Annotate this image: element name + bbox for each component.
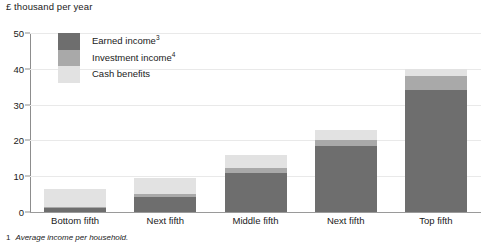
chart-figure: £ thousand per year 01020304050 Bottom f… [0, 0, 485, 247]
y-axis-tick-labels: 01020304050 [0, 33, 24, 212]
chart-legend: Earned income3Investment income4Cash ben… [58, 33, 238, 83]
footnote-marker: 1 [6, 233, 10, 242]
axis-baseline [30, 212, 481, 213]
bar-segment-cash-benefits[interactable] [315, 130, 377, 140]
x-axis-category-label: Next fifth [327, 215, 365, 226]
legend-item[interactable]: Cash benefits [58, 66, 238, 83]
bar-segment-investment-income[interactable] [405, 76, 467, 90]
bar-segment-earned-income[interactable] [134, 197, 196, 212]
bar-segment-earned-income[interactable] [405, 90, 467, 212]
chart-title: £ thousand per year [6, 1, 92, 12]
legend-label: Cash benefits [92, 68, 150, 79]
legend-item[interactable]: Earned income3 [58, 33, 238, 50]
legend-footnote-marker: 4 [172, 50, 176, 57]
legend-swatch-icon [58, 33, 80, 50]
x-axis-category-label: Next fifth [147, 215, 185, 226]
y-axis-tick-label: 30 [13, 99, 24, 110]
legend-label: Earned income3 [92, 35, 160, 46]
x-axis-category-label: Top fifth [419, 215, 452, 226]
bar-segment-investment-income[interactable] [44, 207, 106, 208]
bar-segment-earned-income[interactable] [315, 146, 377, 212]
bar-segment-investment-income[interactable] [315, 140, 377, 146]
bar-segment-investment-income[interactable] [225, 168, 287, 172]
legend-footnote-marker: 3 [156, 34, 160, 41]
x-axis-category-labels: Bottom fifthNext fifthMiddle fifthNext f… [30, 215, 481, 231]
bar-segment-investment-income[interactable] [134, 194, 196, 196]
bar-segment-earned-income[interactable] [44, 208, 106, 212]
bar-segment-cash-benefits[interactable] [405, 69, 467, 76]
legend-swatch-icon [58, 66, 80, 83]
y-axis-tick-label: 0 [19, 207, 24, 218]
bar-group[interactable] [315, 33, 377, 212]
bar-segment-cash-benefits[interactable] [134, 178, 196, 194]
legend-item[interactable]: Investment income4 [58, 50, 238, 67]
bar-group[interactable] [405, 33, 467, 212]
legend-label: Investment income4 [92, 52, 175, 63]
bar-segment-earned-income[interactable] [225, 173, 287, 212]
legend-swatch-icon [58, 50, 80, 67]
y-axis-tick-label: 40 [13, 63, 24, 74]
y-axis-tick-label: 10 [13, 171, 24, 182]
x-axis-category-label: Bottom fifth [51, 215, 99, 226]
x-axis-category-label: Middle fifth [233, 215, 279, 226]
bar-segment-cash-benefits[interactable] [44, 189, 106, 207]
y-axis-tick-label: 50 [13, 28, 24, 39]
footnote-text: Average income per household. [15, 233, 128, 242]
y-axis-tick-label: 20 [13, 135, 24, 146]
chart-footnote: 1Average income per household. [6, 233, 128, 242]
bar-segment-cash-benefits[interactable] [225, 155, 287, 169]
